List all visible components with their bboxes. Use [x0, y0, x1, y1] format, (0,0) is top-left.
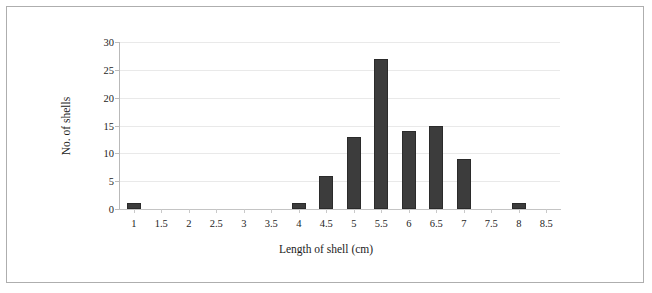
y-axis-tick-mark — [115, 181, 119, 182]
x-axis-tick-mark — [464, 209, 465, 213]
y-axis-tick-label: 5 — [109, 176, 114, 187]
y-axis-tick-label: 0 — [109, 204, 114, 215]
x-axis-tick-label: 3 — [241, 218, 246, 229]
gridline — [120, 42, 560, 43]
x-axis-tick-label: 2 — [186, 218, 191, 229]
bar — [402, 131, 416, 209]
histogram-chart: 051015202530 No. of shells Length of she… — [0, 0, 652, 293]
x-axis-tick-mark — [381, 209, 382, 213]
bar — [457, 159, 471, 209]
x-axis-tick-label: 6.5 — [430, 218, 443, 229]
x-axis-tick-label: 5.5 — [375, 218, 388, 229]
y-axis-tick-label: 10 — [104, 148, 115, 159]
x-axis-tick-mark — [271, 209, 272, 213]
x-axis-tick-label: 2.5 — [210, 218, 223, 229]
gridline — [120, 181, 560, 182]
x-axis-tick-label: 1.5 — [155, 218, 168, 229]
x-axis-tick-mark — [161, 209, 162, 213]
x-axis-tick-label: 5 — [351, 218, 356, 229]
x-axis-tick-label: 1 — [131, 218, 136, 229]
x-axis-tick-mark — [491, 209, 492, 213]
y-axis-tick-label: 30 — [104, 37, 115, 48]
y-axis-tick-mark — [115, 42, 119, 43]
x-axis-tick-label: 7.5 — [485, 218, 498, 229]
x-axis-line — [119, 209, 561, 210]
bar — [319, 176, 333, 209]
y-axis-tick-label: 20 — [104, 92, 115, 103]
y-axis-title: No. of shells — [60, 96, 72, 154]
gridline — [120, 153, 560, 154]
x-axis-tick-mark — [189, 209, 190, 213]
x-axis-tick-label: 4.5 — [320, 218, 333, 229]
x-axis-tick-mark — [216, 209, 217, 213]
x-axis-tick-label: 8 — [516, 218, 521, 229]
y-axis-title-wrap: No. of shells — [56, 42, 76, 209]
y-axis-tick-mark — [115, 70, 119, 71]
y-axis-tick-label: 25 — [104, 64, 115, 75]
y-axis-tick-mark — [115, 98, 119, 99]
x-axis-tick-mark — [354, 209, 355, 213]
x-axis-tick-label: 3.5 — [265, 218, 278, 229]
x-axis-tick-mark — [326, 209, 327, 213]
x-axis-tick-mark — [244, 209, 245, 213]
chart-page: 051015202530 No. of shells Length of she… — [0, 0, 652, 293]
x-axis-tick-label: 8.5 — [540, 218, 553, 229]
bar — [512, 203, 526, 209]
bar — [429, 126, 443, 210]
bar — [347, 137, 361, 209]
y-axis-tick-mark — [115, 153, 119, 154]
x-axis-tick-label: 7 — [461, 218, 466, 229]
y-axis-tick-label: 15 — [104, 120, 115, 131]
x-axis-title: Length of shell (cm) — [0, 243, 652, 255]
gridline — [120, 126, 560, 127]
x-axis-tick-mark — [134, 209, 135, 213]
bar — [374, 59, 388, 209]
x-axis-tick-label: 6 — [406, 218, 411, 229]
y-axis-tick-mark — [115, 209, 119, 210]
x-axis-tick-mark — [409, 209, 410, 213]
gridline — [120, 70, 560, 71]
bar — [292, 203, 306, 209]
y-axis-line — [119, 42, 120, 210]
y-axis-tick-mark — [115, 126, 119, 127]
plot-area — [120, 42, 560, 209]
x-axis-tick-mark — [519, 209, 520, 213]
x-axis-tick-mark — [299, 209, 300, 213]
x-axis-tick-mark — [546, 209, 547, 213]
gridline — [120, 98, 560, 99]
bar — [127, 203, 141, 209]
x-axis-tick-label: 4 — [296, 218, 301, 229]
x-axis-tick-mark — [436, 209, 437, 213]
